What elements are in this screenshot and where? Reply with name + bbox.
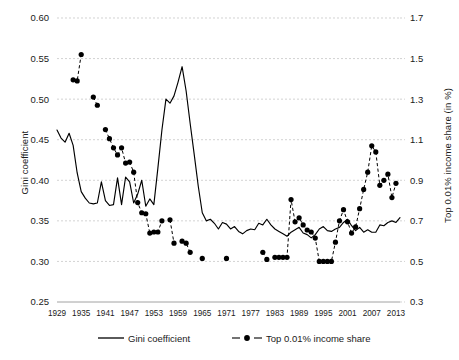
x-axis-tick-label: 1989 <box>290 309 309 318</box>
x-axis-tick-label: 1929 <box>48 309 67 318</box>
top-income-marker <box>115 152 120 157</box>
y-axis-right-tick-label: 0.5 <box>410 256 423 267</box>
y-axis-right-tick-label: 0.7 <box>410 215 423 226</box>
top-income-marker <box>377 183 382 188</box>
chart-legend: Gini coefficientTop 0.01% income share <box>98 333 371 344</box>
top-income-marker <box>260 250 265 255</box>
top-income-marker <box>224 256 229 261</box>
series-gini-coefficient <box>57 67 400 238</box>
y-axis-right-tick-label: 1.5 <box>410 53 423 64</box>
top-income-marker <box>155 229 160 234</box>
y-axis-left-tick-label: 0.60 <box>31 12 50 23</box>
x-axis-ticks: 1929193519411947195319591965197119771983… <box>48 309 406 318</box>
top-income-marker <box>373 149 378 154</box>
top-income-marker <box>329 259 334 264</box>
y-axis-right-ticks: 0.30.50.70.91.11.31.51.7 <box>400 12 423 307</box>
top-income-dashed-line <box>105 130 161 233</box>
x-axis-tick-label: 2007 <box>363 309 382 318</box>
y-axis-right-tick-label: 1.7 <box>410 12 423 23</box>
y-axis-left-tick-label: 0.35 <box>31 215 50 226</box>
top-income-marker <box>143 211 148 216</box>
y-axis-right-tick-label: 1.3 <box>410 94 423 105</box>
top-income-marker <box>357 206 362 211</box>
x-axis-tick-label: 1965 <box>193 309 212 318</box>
top-income-marker <box>292 219 297 224</box>
x-axis-tick-label: 1983 <box>266 309 285 318</box>
top-income-marker <box>333 240 338 245</box>
top-income-marker <box>107 136 112 141</box>
top-income-marker <box>95 103 100 108</box>
top-income-marker <box>159 218 164 223</box>
top-income-marker <box>131 170 136 175</box>
top-income-marker <box>75 78 80 83</box>
x-axis-tick-label: 1941 <box>96 309 115 318</box>
top-income-marker <box>264 257 269 262</box>
y-axis-left-tick-label: 0.50 <box>31 94 50 105</box>
x-axis-tick-label: 2013 <box>387 309 406 318</box>
y-axis-left-ticks: 0.250.300.350.400.450.500.550.60 <box>31 12 50 307</box>
top-income-marker <box>337 218 342 223</box>
y-axis-left-tick-label: 0.30 <box>31 256 50 267</box>
x-axis-tick-label: 2001 <box>338 309 357 318</box>
chart-figure: Gini coefficient Top 0.01% income share … <box>0 0 459 360</box>
y-axis-right-tick-label: 1.1 <box>410 134 423 145</box>
x-axis-tick-label: 1995 <box>314 309 333 318</box>
top-income-marker <box>381 178 386 183</box>
top-income-marker <box>200 256 205 261</box>
top-income-marker <box>103 127 108 132</box>
top-income-marker <box>389 195 394 200</box>
top-income-marker <box>79 52 84 57</box>
top-income-marker <box>284 255 289 260</box>
top-income-marker <box>353 224 358 229</box>
top-income-marker <box>188 250 193 255</box>
top-income-marker <box>171 241 176 246</box>
x-axis-tick-label: 1953 <box>145 309 164 318</box>
top-income-marker <box>91 95 96 100</box>
x-axis-tick-label: 1971 <box>217 309 236 318</box>
x-axis-tick-label: 1947 <box>121 309 140 318</box>
top-income-marker <box>309 229 314 234</box>
y-axis-left-tick-label: 0.25 <box>31 296 50 307</box>
x-axis-tick-label: 1977 <box>242 309 261 318</box>
top-income-marker <box>111 145 116 150</box>
top-income-marker <box>135 200 140 205</box>
x-axis-tick-label: 1935 <box>72 309 91 318</box>
top-income-marker <box>127 159 132 164</box>
y-axis-right-tick-label: 0.9 <box>410 175 423 186</box>
top-income-marker <box>385 172 390 177</box>
top-income-dashed-line <box>170 220 174 243</box>
top-income-marker <box>297 215 302 220</box>
top-income-marker <box>393 181 398 186</box>
top-income-marker <box>369 143 374 148</box>
top-income-marker <box>313 236 318 241</box>
y-axis-right-tick-label: 0.3 <box>410 296 423 307</box>
top-income-marker <box>167 217 172 222</box>
y-axis-left-tick-label: 0.40 <box>31 175 50 186</box>
y-axis-left-tick-label: 0.55 <box>31 53 50 64</box>
top-income-marker <box>349 230 354 235</box>
legend-label-gini: Gini coefficient <box>128 333 190 344</box>
y-axis-left-tick-label: 0.45 <box>31 134 50 145</box>
top-income-marker <box>361 187 366 192</box>
top-income-marker <box>301 222 306 227</box>
top-income-marker <box>119 145 124 150</box>
top-income-marker <box>288 197 293 202</box>
gini-line <box>57 67 400 238</box>
series-top-income-share <box>71 52 399 264</box>
top-income-marker <box>341 207 346 212</box>
top-income-marker <box>184 241 189 246</box>
x-axis-tick-label: 1959 <box>169 309 188 318</box>
legend-swatch-marker <box>244 335 250 341</box>
top-income-marker <box>365 170 370 175</box>
chart-plot-area: 0.250.300.350.400.450.500.550.60 0.30.50… <box>0 0 459 360</box>
legend-label-top-income: Top 0.01% income share <box>266 333 371 344</box>
top-income-marker <box>345 219 350 224</box>
